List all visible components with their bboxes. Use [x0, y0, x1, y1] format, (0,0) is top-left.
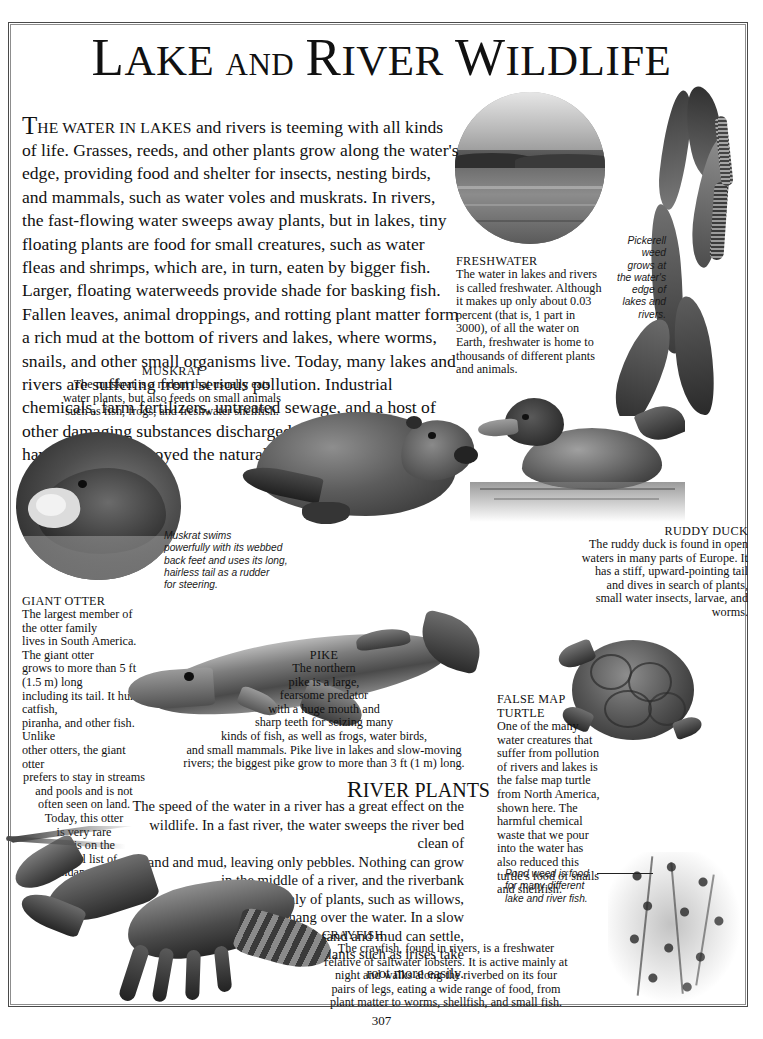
pond-weed-leader-line	[597, 873, 653, 874]
caption-freshwater-heading: FRESHWATER	[456, 254, 604, 268]
river-plants-line: The speed of the water in a river has a …	[120, 797, 464, 816]
otter-line: prefers to stay in streams	[22, 771, 146, 785]
caption-pike-body: The northern pike is a large, fearsome p…	[150, 662, 498, 771]
pike-line: sharp teeth for seizing many	[150, 716, 498, 730]
caption-crayfish: CRAYFISH The crayfish, found in rivers, …	[322, 928, 570, 1010]
pike-line: pike is a large,	[150, 676, 498, 690]
muskrat-illustration	[232, 370, 482, 550]
pike-line: rivers; the biggest pike grow to more th…	[150, 757, 498, 771]
freshwater-lake-photo	[455, 92, 605, 244]
title-rest-ildlife: ILDLIFE	[505, 37, 671, 84]
title-rest-ake: AKE	[124, 37, 214, 84]
caption-pike: PIKE The northern pike is a large, fears…	[150, 648, 498, 771]
giant-otter-illustration	[16, 432, 181, 580]
encyclopedia-page: LAKE AND RIVER WILDLIFE THE WATER IN LAK…	[0, 0, 763, 1039]
caption-false-map-turtle: FALSE MAP TURTLE One of the many water c…	[497, 692, 605, 897]
caption-crayfish-heading: CRAYFISH	[322, 928, 570, 942]
intro-smallcaps: HE WATER IN LAKES	[37, 119, 191, 136]
caption-freshwater-body: The water in lakes and rivers is called …	[456, 268, 604, 377]
annotation-pond-weed: Pond weed is food for many different lak…	[505, 868, 609, 905]
caption-ruddy-duck-body: The ruddy duck is found in open waters i…	[578, 538, 748, 620]
caption-false-map-turtle-heading: FALSE MAP TURTLE	[497, 692, 605, 720]
crayfish-illustration	[6, 826, 336, 1016]
pike-line: fearsome predator	[150, 689, 498, 703]
page-number: 307	[0, 1013, 763, 1029]
caption-ruddy-duck: RUDDY DUCK The ruddy duck is found in op…	[578, 524, 748, 620]
title-cap-l: L	[92, 28, 125, 86]
title-and: AND	[226, 47, 295, 82]
intro-dropcap: T	[22, 112, 37, 139]
title-rest-iver: IVER	[341, 37, 443, 84]
pike-line: kinds of fish, as well as frogs, water b…	[150, 730, 498, 744]
pike-line: with a huge mouth and	[150, 703, 498, 717]
caption-pike-heading: PIKE	[150, 648, 498, 662]
ruddy-duck-illustration	[470, 378, 685, 523]
caption-crayfish-body: The crayfish, found in rivers, is a fres…	[322, 942, 570, 1010]
pike-line: and small mammals. Pike live in lakes an…	[150, 744, 498, 758]
page-title: LAKE AND RIVER WILDLIFE	[0, 34, 763, 88]
title-cap-w: W	[455, 28, 506, 86]
annotation-pickerell-weed: Pickerell weed grows at the water's edge…	[600, 235, 666, 321]
title-cap-r: R	[306, 28, 342, 86]
caption-ruddy-duck-heading: RUDDY DUCK	[578, 524, 748, 538]
caption-freshwater: FRESHWATER The water in lakes and rivers…	[456, 254, 604, 377]
pond-weed-illustration	[600, 844, 750, 1010]
pike-line: The northern	[150, 662, 498, 676]
annotation-muskrat-swims: Muskrat swims powerfully with its webbed…	[164, 530, 290, 591]
